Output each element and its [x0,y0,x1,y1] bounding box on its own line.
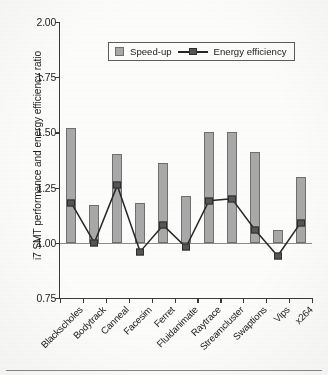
x-axis-tick-mark [197,298,198,303]
energy-efficiency-marker [205,197,213,204]
y-axis-tick-label: 1.00 [37,237,56,248]
energy-efficiency-marker [228,195,236,202]
energy-efficiency-marker [136,248,144,255]
x-axis-tick-mark [175,298,176,303]
x-axis-tick-mark [312,298,313,303]
energy-efficiency-marker [67,200,75,207]
y-axis-tick-label: 1.25 [37,182,56,193]
x-axis-tick-mark [83,298,84,303]
energy-efficiency-marker [159,222,167,229]
x-axis-tick-mark [266,298,267,303]
x-axis-tick-mark [129,298,130,303]
chart-legend: Speed-up Energy efficiency [108,42,295,61]
energy-efficiency-marker [90,239,98,246]
x-axis-tick-mark [152,298,153,303]
chart-figure: i7 SMT performance and energy efficiency… [0,0,328,375]
x-axis-tick-mark [243,298,244,303]
x-axis-tick-mark [60,298,61,303]
energy-efficiency-marker [274,253,282,260]
y-axis-tick-label: 2.00 [37,17,56,28]
y-axis-tick-label: 0.75 [37,293,56,304]
plot-area [60,22,312,298]
x-axis-line [59,298,312,299]
energy-efficiency-marker [251,226,259,233]
legend-speedup-label: Speed-up [130,46,172,57]
energy-efficiency-marker [182,244,190,251]
y-axis-tick-labels: 2.001.751.501.251.000.75 [20,0,56,375]
energy-efficiency-marker [113,182,121,189]
energy-efficiency-marker [297,219,305,226]
page-rule [6,370,322,371]
x-axis-tick-mark [220,298,221,303]
x-axis-tick-mark [289,298,290,303]
legend-energy-line-icon [178,47,208,56]
legend-speedup-swatch [115,47,124,56]
legend-energy-label: Energy efficiency [214,46,287,57]
x-axis-tick-mark [106,298,107,303]
y-axis-tick-label: 1.50 [37,127,56,138]
y-axis-tick-label: 1.75 [37,72,56,83]
